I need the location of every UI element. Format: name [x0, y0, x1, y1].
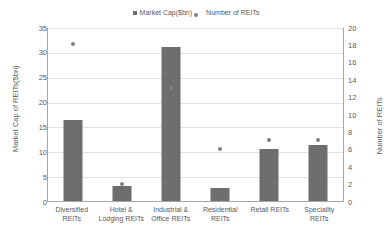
y-right-tick: 20	[348, 25, 372, 33]
x-label-line: Residential	[196, 205, 246, 214]
x-label-hotel-lodging: Hotel & Lodging REITs	[97, 205, 147, 223]
plot-area	[47, 28, 344, 202]
reit-market-cap-chart: Market Cap($bn) Number of REITs Market C…	[0, 0, 392, 242]
x-label-line: Lodging REITs	[97, 214, 147, 223]
y-right-tick: 14	[348, 77, 372, 85]
category-slot-hotel-lodging	[97, 28, 146, 201]
y-right-tick: 8	[348, 129, 372, 137]
category-slot-retail	[245, 28, 294, 201]
x-label-speciality: Speciality REITs	[295, 205, 345, 223]
x-label-line: Hotel &	[97, 205, 147, 214]
y-right-tick: 6	[348, 146, 372, 154]
bar-hotel-lodging[interactable]	[112, 186, 131, 201]
x-label-diversified: Diversified REITs	[47, 205, 97, 223]
y-right-tick: 10	[348, 112, 372, 120]
dot-residential[interactable]	[218, 147, 222, 151]
x-label-line: Speciality REITs	[295, 205, 345, 223]
y-right-tick: 18	[348, 42, 372, 50]
y-left-tick: 20	[7, 99, 47, 107]
chart-legend: Market Cap($bn) Number of REITs	[0, 9, 392, 16]
legend-item-number-of-reits[interactable]: Number of REITs	[206, 9, 259, 16]
y-right-tick: 16	[348, 59, 372, 67]
y-right-tick: 4	[348, 164, 372, 172]
x-label-line: Office REITs	[146, 214, 196, 223]
x-label-industrial-office: Industrial & Office REITs	[146, 205, 196, 223]
dot-industrial-office[interactable]	[169, 86, 173, 90]
circle-marker-icon	[194, 13, 198, 17]
dot-diversified[interactable]	[71, 42, 75, 46]
bar-retail[interactable]	[260, 149, 279, 201]
y-left-tick: 35	[7, 25, 47, 33]
x-label-line: Diversified	[47, 205, 97, 214]
y-right-tick: 2	[348, 181, 372, 189]
square-marker-icon	[133, 11, 137, 15]
category-slot-industrial-office	[146, 28, 195, 201]
legend-label-number-of-reits: Number of REITs	[206, 9, 259, 16]
y-axis-right-title: Number of REITs	[376, 71, 384, 181]
y-left-tick: 10	[7, 149, 47, 157]
x-axis-labels: Diversified REITs Hotel & Lodging REITs …	[47, 205, 344, 223]
y-left-tick: 0	[7, 199, 47, 207]
x-label-retail: Retail REITs	[245, 205, 295, 223]
legend-label-market-cap: Market Cap($bn)	[140, 9, 193, 16]
y-right-tick: 12	[348, 94, 372, 102]
y-left-tick: 15	[7, 124, 47, 132]
y-left-tick: 25	[7, 74, 47, 82]
dot-retail[interactable]	[267, 138, 271, 142]
bar-residential[interactable]	[211, 188, 230, 201]
dot-speciality[interactable]	[316, 138, 320, 142]
y-left-tick: 5	[7, 174, 47, 182]
bar-group	[48, 28, 343, 201]
x-label-line: REITs	[196, 214, 246, 223]
dot-hotel-lodging[interactable]	[120, 182, 124, 186]
category-slot-residential	[196, 28, 245, 201]
x-label-line: REITs	[47, 214, 97, 223]
bar-speciality[interactable]	[309, 145, 328, 201]
y-right-tick: 0	[348, 199, 372, 207]
bar-diversified[interactable]	[63, 120, 82, 201]
category-slot-diversified	[48, 28, 97, 201]
x-label-residential: Residential REITs	[196, 205, 246, 223]
x-label-line: Retail REITs	[245, 205, 295, 214]
y-left-tick: 30	[7, 49, 47, 57]
bar-industrial-office[interactable]	[161, 47, 180, 201]
legend-item-market-cap[interactable]: Market Cap($bn)	[133, 9, 193, 16]
category-slot-speciality	[294, 28, 343, 201]
x-label-line: Industrial &	[146, 205, 196, 214]
